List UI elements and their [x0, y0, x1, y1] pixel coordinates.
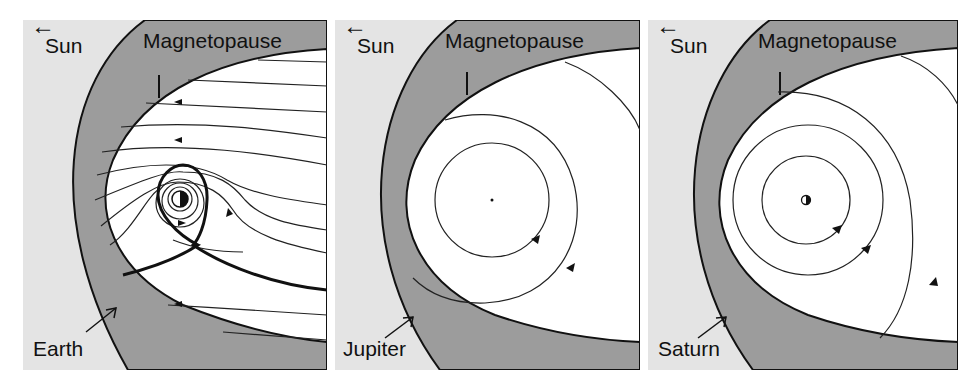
- magnetopause-label: Magnetopause: [143, 30, 282, 51]
- magnetopause-label: Magnetopause: [445, 30, 584, 51]
- planet-label-jupiter: Jupiter: [343, 338, 406, 359]
- panel-saturn: ← Sun Magnetopause Saturn: [648, 20, 958, 370]
- magnetopause-label: Magnetopause: [758, 30, 897, 51]
- sun-label: Sun: [670, 35, 707, 56]
- planet-label-saturn: Saturn: [658, 338, 720, 359]
- sun-label: Sun: [357, 35, 394, 56]
- jupiter-magnetosphere-diagram: [335, 20, 640, 370]
- sun-label: Sun: [45, 35, 82, 56]
- planet-label-earth: Earth: [33, 338, 83, 359]
- saturn-magnetosphere-diagram: [648, 20, 958, 370]
- earth-magnetosphere-diagram: [23, 20, 327, 370]
- panel-earth: ← Sun Magnetopause Earth: [23, 20, 327, 370]
- panel-jupiter: ← Sun Magnetopause Jupiter: [335, 20, 640, 370]
- jupiter-planet: [491, 199, 494, 202]
